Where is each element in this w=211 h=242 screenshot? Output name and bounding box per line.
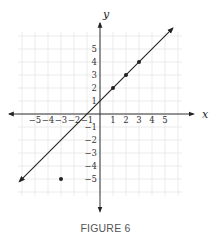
x-tick-label: 1 — [110, 115, 115, 125]
x-tick-label: −5 — [29, 115, 42, 125]
y-tick-label: −5 — [84, 174, 97, 184]
y-tick-label: 5 — [92, 44, 97, 54]
y-axis-label: y — [102, 8, 110, 21]
x-tick-label: 4 — [149, 115, 154, 125]
data-point — [59, 177, 63, 181]
data-point — [111, 86, 115, 90]
x-tick-label: 3 — [136, 115, 141, 125]
coordinate-plane: −5−4−3−2−11234554321−1−2−3−4−5 x y — [0, 0, 211, 242]
x-tick-label: −2 — [68, 115, 81, 125]
x-tick-label: 2 — [123, 115, 128, 125]
figure-caption: FIGURE 6 — [0, 222, 211, 234]
data-point — [137, 60, 141, 64]
y-tick-label: −3 — [84, 148, 97, 158]
data-point — [124, 73, 128, 77]
x-tick-label: −4 — [42, 115, 55, 125]
x-axis-label: x — [202, 108, 209, 121]
y-tick-label: 3 — [92, 70, 97, 80]
x-tick-label: 5 — [162, 115, 167, 125]
y-tick-label: −1 — [84, 122, 97, 132]
y-tick-label: 2 — [92, 83, 97, 93]
y-tick-label: −4 — [84, 161, 97, 171]
y-tick-label: 4 — [92, 57, 97, 67]
x-tick-label: −3 — [55, 115, 68, 125]
y-tick-label: −2 — [84, 135, 97, 145]
